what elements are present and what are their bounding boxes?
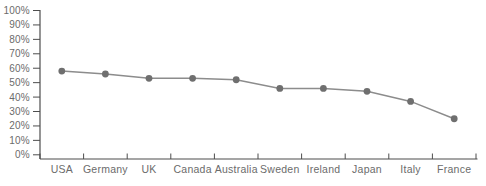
data-point-usa bbox=[58, 68, 65, 75]
y-axis: 0%10%20%30%40%50%60%70%80%90%100% bbox=[3, 5, 40, 160]
y-tick-label: 40% bbox=[9, 92, 30, 103]
x-category-label-ireland: Ireland bbox=[306, 163, 340, 175]
data-point-canada bbox=[189, 75, 196, 82]
data-line bbox=[62, 71, 454, 119]
data-point-ireland bbox=[320, 85, 327, 92]
x-category-label-sweden: Sweden bbox=[260, 163, 299, 175]
line-chart-figure: 0%10%20%30%40%50%60%70%80%90%100% USAGer… bbox=[0, 0, 486, 186]
x-category-label-canada: Canada bbox=[173, 163, 211, 175]
y-tick-label: 90% bbox=[9, 19, 30, 30]
y-tick-label: 70% bbox=[9, 48, 30, 59]
y-tick-label: 80% bbox=[9, 34, 30, 45]
y-tick-label: 0% bbox=[15, 149, 30, 160]
y-tick-label: 60% bbox=[9, 63, 30, 74]
data-point-australia bbox=[233, 76, 240, 83]
x-category-label-italy: Italy bbox=[400, 163, 421, 175]
x-category-label-germany: Germany bbox=[83, 163, 128, 175]
x-category-label-france: France bbox=[437, 163, 471, 175]
y-tick-label: 100% bbox=[3, 5, 30, 16]
x-category-label-uk: UK bbox=[141, 163, 156, 175]
data-point-germany bbox=[102, 71, 109, 78]
x-category-label-usa: USA bbox=[51, 163, 73, 175]
data-point-sweden bbox=[276, 85, 283, 92]
y-tick-label: 10% bbox=[9, 135, 30, 146]
y-tick-label: 20% bbox=[9, 120, 30, 131]
data-point-italy bbox=[407, 98, 414, 105]
line-chart-svg: 0%10%20%30%40%50%60%70%80%90%100% USAGer… bbox=[0, 0, 486, 186]
x-category-label-australia: Australia bbox=[215, 163, 258, 175]
data-point-france bbox=[451, 115, 458, 122]
x-axis: USAGermanyUKCanadaAustraliaSwedenIreland… bbox=[40, 154, 478, 176]
y-tick-label: 50% bbox=[9, 77, 30, 88]
data-point-uk bbox=[146, 75, 153, 82]
y-tick-label: 30% bbox=[9, 106, 30, 117]
data-point-japan bbox=[364, 88, 371, 95]
x-category-label-japan: Japan bbox=[352, 163, 382, 175]
data-series bbox=[58, 68, 457, 122]
